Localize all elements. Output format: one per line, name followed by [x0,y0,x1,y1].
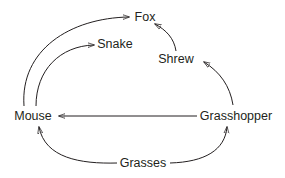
edges-layer [0,0,285,178]
node-grasshopper: Grasshopper [200,110,272,123]
node-mouse: Mouse [14,110,52,123]
edge-shrew-to-fox [155,24,176,51]
edge-mouse-to-snake [36,45,94,106]
food-web-diagram: Fox Snake Shrew Mouse Grasshopper Grasse… [0,0,285,178]
node-snake: Snake [97,38,132,51]
edge-mouse-to-fox [24,17,129,106]
edge-grasses-to-grasshopper [170,127,227,163]
node-shrew: Shrew [158,53,193,66]
node-fox: Fox [135,11,156,24]
node-grasses: Grasses [120,157,167,170]
edge-grasshopper-to-shrew [204,62,233,105]
edge-grasses-to-mouse [39,127,117,163]
